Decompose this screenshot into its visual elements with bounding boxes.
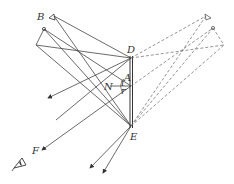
incident-rays [36,16,131,126]
label-f: F [31,145,40,156]
eye-icon [12,158,26,171]
label-r: r [121,85,127,96]
label-e: E [129,131,138,142]
virtual-image [131,14,224,126]
label-b: B [36,11,44,22]
label-d: D [126,44,135,55]
label-n: N [103,81,114,92]
mirror [130,56,133,128]
label-a: A [123,72,131,83]
plane-mirror-reflection-diagram: B D A N i r E F [0,0,234,184]
reflected-rays [42,58,131,173]
